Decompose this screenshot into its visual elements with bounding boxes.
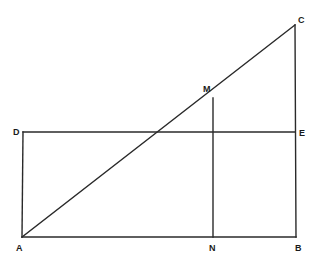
point-label-a: A <box>16 243 23 253</box>
point-label-d: D <box>13 127 20 137</box>
geometry-diagram: ABCDEMN <box>0 0 317 263</box>
point-label-e: E <box>299 128 305 138</box>
segment-bc <box>295 25 296 237</box>
point-label-b: B <box>295 243 302 253</box>
diagram-segments <box>22 25 296 237</box>
point-label-c: C <box>298 15 305 25</box>
segment-ac <box>22 25 295 237</box>
point-label-m: M <box>203 84 211 94</box>
point-label-n: N <box>209 243 216 253</box>
segment-ad <box>22 132 23 237</box>
